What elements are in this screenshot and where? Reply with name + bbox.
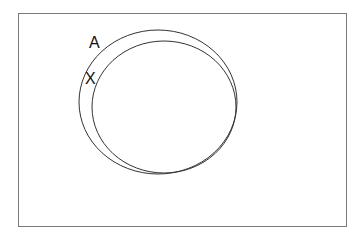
universe-frame <box>19 14 347 227</box>
venn-diagram: A X <box>0 0 364 240</box>
set-x-label: X <box>85 70 96 87</box>
set-a-label: A <box>89 34 100 51</box>
